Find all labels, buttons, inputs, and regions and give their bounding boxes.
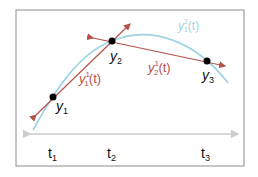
tangent-label-1: y11(t): [78, 70, 101, 88]
point-y2: [109, 38, 116, 45]
curve-label: y21(t): [177, 18, 199, 33]
tangent-label-2: y12(t): [147, 59, 171, 77]
point-y3: [204, 58, 211, 65]
frame: [16, 10, 244, 166]
ode-step-diagram: y1 y2 y3 y11(t) y12(t) y21(t) t1 t2 t3: [0, 0, 258, 177]
